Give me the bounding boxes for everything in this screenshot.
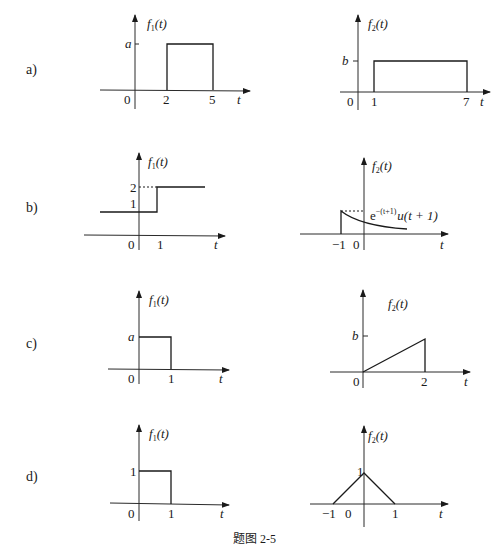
origin-label: 0	[353, 237, 360, 252]
plot-d-right: f2(t) 1 −1 0 1 t	[310, 426, 448, 527]
signal-rect-pulse	[167, 44, 213, 90]
x-tick-label: 7	[463, 94, 470, 109]
x-axis-var: t	[219, 371, 223, 386]
figure-caption: 题图 2-5	[233, 532, 276, 546]
figure-canvas: a) f1(t) a 0 2 5 t f2(t) b 0 1 7 t b) f1…	[0, 0, 500, 550]
row-label-d: d)	[26, 469, 38, 485]
origin-label: 0	[347, 94, 354, 109]
x-axis-var: t	[214, 237, 218, 252]
x-tick-label: 1	[392, 506, 399, 521]
y-axis-label: f2(t)	[368, 16, 388, 33]
plot-a-right: f2(t) b 0 1 7 t	[340, 15, 490, 110]
y-tick-label: b	[352, 328, 359, 343]
y-axis-label: f2(t)	[372, 158, 392, 175]
x-tick-label: 1	[168, 506, 175, 521]
y-axis-label: f2(t)	[368, 428, 388, 445]
y-axis-label: f1(t)	[149, 292, 169, 309]
plot-b-left: f1(t) 2 1 0 1 t	[84, 153, 225, 252]
x-axis-var: t	[220, 506, 224, 521]
plot-c-left: f1(t) a 0 1 t	[108, 291, 229, 386]
y-tick-label: a	[125, 36, 132, 51]
x-axis-var: t	[439, 506, 443, 521]
x-axis	[110, 503, 229, 505]
y-tick-label: a	[128, 329, 135, 344]
signal-step	[100, 187, 205, 212]
origin-label: 0	[128, 371, 135, 386]
origin-label: 0	[124, 92, 131, 107]
origin-label: 0	[128, 237, 135, 252]
row-label-b: b)	[26, 200, 38, 216]
y-tick-label: 1	[130, 464, 137, 479]
x-tick-label: 2	[163, 92, 170, 107]
plot-c-right: f2(t) b 0 2 t	[330, 290, 470, 389]
x-axis	[108, 369, 229, 370]
y-tick-label: 1	[357, 464, 364, 479]
y-axis-label: f1(t)	[148, 154, 168, 171]
signal-rect-pulse	[139, 471, 171, 504]
x-axis	[84, 235, 225, 236]
y-axis-label: f1(t)	[149, 426, 169, 443]
x-axis	[100, 90, 250, 91]
plot-b-right: f2(t) e−(t+1)u(t + 1) −1 0 t	[300, 158, 448, 252]
curve-annotation: e−(t+1)u(t + 1)	[370, 207, 438, 223]
y-tick-label: 1	[130, 196, 137, 211]
x-axis-var: t	[237, 92, 241, 107]
x-tick-label: 1	[168, 371, 175, 386]
y-axis-label: f1(t)	[147, 16, 167, 33]
x-axis-var: t	[480, 94, 484, 109]
y-axis-label: f2(t)	[388, 296, 408, 313]
x-axis-var: t	[440, 237, 444, 252]
x-tick-label: 1	[371, 94, 378, 109]
plot-d-left: f1(t) 1 0 1 t	[110, 425, 229, 521]
y-tick-label: 2	[130, 180, 137, 195]
x-tick-label: 5	[209, 92, 216, 107]
origin-label: 0	[353, 374, 360, 389]
origin-label: 0	[345, 506, 352, 521]
x-tick-label: −1	[332, 237, 346, 252]
x-axis-var: t	[464, 374, 468, 389]
x-tick-label: −1	[322, 506, 336, 521]
x-tick-label: 1	[157, 237, 164, 252]
x-tick-label: 2	[421, 374, 428, 389]
origin-label: 0	[128, 506, 135, 521]
signal-ramp	[363, 339, 425, 372]
row-label-a: a)	[26, 62, 37, 78]
y-tick-label: b	[342, 53, 349, 68]
row-label-c: c)	[26, 336, 37, 352]
signal-rect-pulse	[374, 61, 467, 92]
plot-a-left: f1(t) a 0 2 5 t	[100, 15, 250, 109]
signal-rect-pulse	[139, 337, 171, 369]
